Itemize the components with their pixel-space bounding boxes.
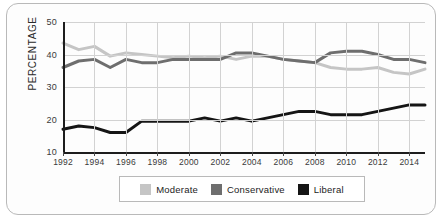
chart-legend: ModerateConservativeLiberal	[119, 176, 365, 202]
x-tick-label: 1996	[116, 157, 136, 167]
y-tick-label: 50	[27, 17, 57, 27]
x-tick-label: 2000	[179, 157, 199, 167]
x-tick-mark	[315, 152, 316, 156]
x-tick-label: 2008	[305, 157, 325, 167]
gridline-vertical	[409, 22, 410, 152]
plot-area	[63, 22, 425, 152]
legend-item-liberal[interactable]: Liberal	[298, 184, 344, 195]
legend-item-conservative[interactable]: Conservative	[211, 184, 285, 195]
x-tick-label: 1994	[85, 157, 105, 167]
gridline-horizontal	[63, 55, 425, 56]
gridline-vertical	[94, 22, 95, 152]
y-axis-tick-labels: 1020304050	[25, 22, 57, 153]
y-tick-label: 10	[27, 147, 57, 157]
gridline-vertical	[157, 22, 158, 152]
y-tick-label: 40	[27, 50, 57, 60]
gridline-vertical	[378, 22, 379, 152]
legend-swatch-liberal	[298, 184, 309, 195]
x-tick-label: 2004	[242, 157, 262, 167]
x-tick-mark	[220, 152, 221, 156]
x-tick-mark	[283, 152, 284, 156]
gridline-horizontal	[63, 120, 425, 121]
x-tick-mark	[346, 152, 347, 156]
legend-item-moderate[interactable]: Moderate	[140, 184, 198, 195]
x-tick-mark	[189, 152, 190, 156]
gridline-horizontal	[63, 22, 425, 23]
gridline-vertical	[315, 22, 316, 152]
x-tick-mark	[94, 152, 95, 156]
x-tick-mark	[126, 152, 127, 156]
legend-label: Conservative	[227, 184, 285, 195]
x-tick-label: 2002	[211, 157, 231, 167]
x-tick-label: 2010	[336, 157, 356, 167]
legend-label: Liberal	[314, 184, 344, 195]
gridline-vertical	[283, 22, 284, 152]
gridline-vertical	[189, 22, 190, 152]
x-tick-label: 1998	[148, 157, 168, 167]
gridline-horizontal	[63, 87, 425, 88]
x-tick-label: 2012	[368, 157, 388, 167]
y-tick-label: 20	[27, 115, 57, 125]
gridline-vertical	[252, 22, 253, 152]
legend-swatch-moderate	[140, 184, 151, 195]
x-tick-mark	[252, 152, 253, 156]
x-tick-mark	[63, 152, 64, 156]
gridline-vertical	[126, 22, 127, 152]
legend-label: Moderate	[156, 184, 198, 195]
y-tick-label: 30	[27, 82, 57, 92]
gridline-vertical	[220, 22, 221, 152]
chart-card: PERCENTAGE 1020304050 199219941996199820…	[6, 3, 436, 215]
x-tick-label: 2006	[273, 157, 293, 167]
legend-swatch-conservative	[211, 184, 222, 195]
x-tick-label: 2014	[399, 157, 419, 167]
x-axis-line	[63, 152, 425, 154]
y-axis-line	[63, 22, 65, 153]
screenshot-root: PERCENTAGE 1020304050 199219941996199820…	[0, 0, 448, 224]
x-tick-label: 1992	[53, 157, 73, 167]
gridline-vertical	[346, 22, 347, 152]
x-tick-mark	[378, 152, 379, 156]
x-tick-mark	[409, 152, 410, 156]
x-tick-mark	[157, 152, 158, 156]
gridlines-layer	[63, 22, 425, 152]
